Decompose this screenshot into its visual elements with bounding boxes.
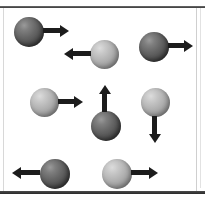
arrow-head	[184, 40, 193, 52]
arrow-head	[12, 167, 21, 179]
arrow-shaft	[19, 170, 40, 175]
arrow-shaft	[131, 170, 151, 175]
arrow-shaft	[71, 51, 91, 56]
sphere-dark	[40, 159, 70, 189]
sphere-light	[102, 159, 132, 189]
arrow-head	[74, 96, 83, 108]
diagram-canvas	[0, 0, 205, 203]
arrow-shaft	[152, 116, 157, 136]
sphere-light	[90, 40, 119, 69]
sphere-light	[141, 88, 170, 117]
arrow-head	[149, 134, 161, 143]
arrow-head	[149, 167, 158, 179]
frame-right-border	[196, 8, 197, 191]
arrow-head	[60, 25, 69, 37]
frame-bottom-border	[0, 191, 205, 194]
sphere-light	[30, 88, 59, 117]
sphere-dark	[91, 111, 121, 141]
frame-left-border	[3, 8, 4, 191]
arrow-head	[64, 48, 73, 60]
frame-right-outer-border	[200, 8, 201, 188]
frame-top-border	[0, 6, 205, 8]
sphere-dark	[139, 32, 169, 62]
sphere-dark	[14, 17, 44, 47]
arrow-shaft	[102, 92, 107, 112]
arrow-head	[99, 85, 111, 94]
